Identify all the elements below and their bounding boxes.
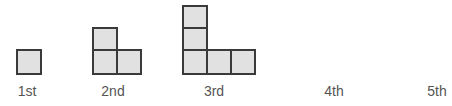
square <box>182 49 208 75</box>
square <box>230 49 256 75</box>
figure-label-3rd: 3rd <box>184 83 244 99</box>
square <box>206 49 232 75</box>
figure-label-5th: 5th <box>407 83 452 99</box>
square <box>116 49 142 75</box>
figure-label-4th: 4th <box>304 83 364 99</box>
figure-label-1st: 1st <box>0 83 57 99</box>
square <box>92 49 118 75</box>
figure-label-2nd: 2nd <box>83 83 143 99</box>
square <box>16 49 42 75</box>
